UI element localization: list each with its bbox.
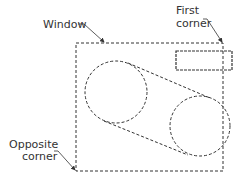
first-corner-label-line1: First xyxy=(176,4,200,17)
window-label: Window xyxy=(43,18,86,31)
selection-window xyxy=(76,43,223,171)
upper-tangent-line xyxy=(128,63,210,98)
lower-tangent-line xyxy=(104,121,188,155)
right-circle xyxy=(170,96,230,156)
window-selection-diagram: Window First corner Opposite corner xyxy=(0,0,243,181)
opposite-corner-label-line2: corner xyxy=(22,150,58,163)
small-rectangle xyxy=(176,51,232,70)
left-circle xyxy=(85,61,147,123)
